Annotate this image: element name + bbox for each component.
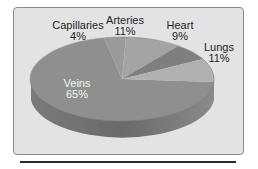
- divider-rule: [20, 161, 236, 163]
- label-lungs-pct: 11%: [202, 53, 236, 64]
- label-capillaries-pct: 4%: [50, 31, 106, 42]
- label-arteries: Arteries 11%: [104, 15, 146, 37]
- label-arteries-pct: 11%: [104, 26, 146, 37]
- label-lungs: Lungs 11%: [202, 42, 236, 64]
- label-veins: Veins 65%: [60, 78, 94, 100]
- label-veins-pct: 65%: [60, 89, 94, 100]
- label-heart: Heart 9%: [162, 20, 198, 42]
- label-capillaries: Capillaries 4%: [50, 20, 106, 42]
- label-heart-pct: 9%: [162, 31, 198, 42]
